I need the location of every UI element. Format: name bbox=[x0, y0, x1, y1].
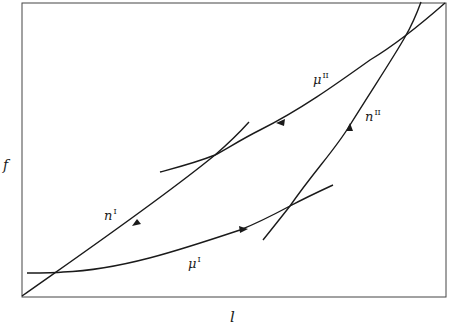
label-mu-II-sup: II bbox=[322, 71, 328, 80]
label-mu-II-base: μ bbox=[313, 72, 321, 87]
label-n-II: nII bbox=[365, 109, 381, 123]
label-mu-I-base: μ bbox=[188, 256, 196, 271]
label-mu-II: μII bbox=[313, 72, 329, 86]
arrow-n-II-icon bbox=[346, 123, 353, 131]
label-n-II-base: n bbox=[365, 109, 373, 124]
plot-frame bbox=[22, 3, 446, 297]
label-mu-I: μI bbox=[188, 256, 201, 270]
label-n-II-sup: II bbox=[374, 108, 380, 117]
curve-n-I bbox=[22, 122, 249, 296]
label-n-I-base: n bbox=[104, 208, 112, 223]
curve-n-II bbox=[263, 2, 421, 240]
label-mu-I-sup: I bbox=[197, 255, 200, 264]
y-axis-label: f bbox=[3, 158, 8, 172]
label-n-I: nI bbox=[104, 208, 117, 222]
x-axis-label: l bbox=[230, 310, 235, 325]
diagram-canvas bbox=[0, 0, 450, 334]
arrow-n-I-icon bbox=[132, 219, 141, 226]
curve-mu-II bbox=[160, 3, 445, 172]
label-n-I-sup: I bbox=[113, 207, 116, 216]
